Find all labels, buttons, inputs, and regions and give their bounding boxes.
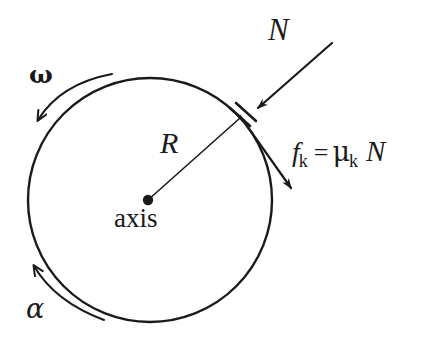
friction-force-arrow [240, 116, 291, 188]
friction-equation-label: fk=μkN [292, 137, 385, 166]
normal-force-arrow [258, 43, 332, 108]
normal-force-label: N [268, 14, 289, 45]
angular-velocity-label: ω [29, 62, 53, 87]
radius-label: R [160, 128, 178, 158]
angular-acceleration-arc [34, 266, 104, 320]
normal-force-symbol: N [366, 137, 385, 166]
axis-label: axis [114, 205, 158, 232]
friction-symbol-subscript: k [299, 152, 308, 170]
mu-symbol-subscript: k [349, 152, 358, 170]
diagram-canvas [0, 0, 429, 343]
equals-sign: = [314, 140, 329, 166]
mu-symbol: μ [332, 138, 350, 165]
physics-diagram-figure: ω α N R axis fk=μkN [0, 0, 429, 343]
angular-acceleration-label: α [26, 295, 44, 322]
